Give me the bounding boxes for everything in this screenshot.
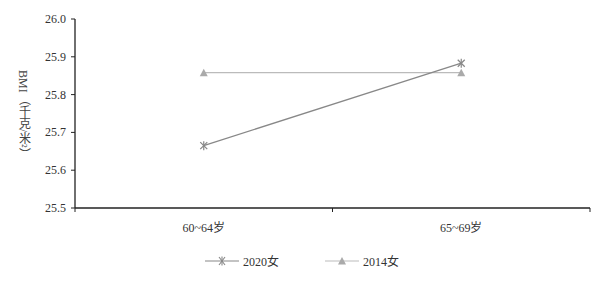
x-category-label: 60~64岁 (183, 220, 226, 235)
y-tick-label: 25.7 (45, 125, 66, 139)
x-category-label: 65~69岁 (440, 220, 483, 235)
y-tick-label: 25.9 (45, 50, 66, 64)
y-axis-label: BMI（千克/米²） (14, 70, 30, 160)
y-tick-label: 26.0 (45, 12, 66, 26)
series-group (200, 59, 466, 150)
asterisk-marker-icon (200, 141, 207, 150)
series-line (204, 63, 462, 145)
y-tick-label: 25.6 (45, 163, 66, 177)
triangle-line-icon (325, 255, 359, 267)
legend-label-2020: 2020女 (243, 252, 279, 270)
y-axis: 25.525.625.725.825.926.0 (45, 12, 75, 215)
legend-item-2020: 2020女 (205, 252, 279, 270)
y-tick-label: 25.5 (45, 201, 66, 215)
legend-item-2014: 2014女 (325, 252, 399, 270)
asterisk-line-icon (205, 255, 239, 267)
x-axis: 60~64岁65~69岁 (75, 208, 590, 235)
y-tick-label: 25.8 (45, 88, 66, 102)
asterisk-marker-icon (458, 59, 465, 68)
legend-label-2014: 2014女 (363, 252, 399, 270)
legend: 2020女 2014女 (0, 252, 604, 270)
line-chart: 25.525.625.725.825.926.0 60~64岁65~69岁 (0, 0, 604, 282)
